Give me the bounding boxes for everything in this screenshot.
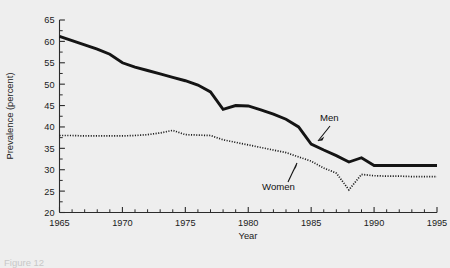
annotation-arrow-women (288, 163, 297, 182)
x-axis-title: Year (239, 230, 258, 241)
annotation-label-men: Men (320, 112, 339, 123)
y-tick-label: 40 (44, 122, 54, 132)
y-axis-title: Prevalence (percent) (4, 72, 15, 159)
y-tick-label: 60 (44, 37, 54, 47)
x-tick-label: 1990 (364, 218, 384, 228)
series-line-women (60, 130, 438, 189)
annotation-label-women: Women (262, 181, 295, 192)
smoking-prevalence-chart: 20253035404550556065 1965197019751980198… (0, 0, 450, 268)
y-axis: 20253035404550556065 (44, 15, 65, 218)
y-tick-label: 50 (44, 80, 54, 90)
x-tick-label: 1975 (175, 218, 195, 228)
annotation-arrow-men (318, 126, 330, 141)
annotation-men: Men (318, 112, 339, 141)
y-tick-label: 20 (44, 208, 54, 218)
data-series-group (60, 36, 438, 190)
y-tick-label: 25 (44, 187, 54, 197)
x-axis: 1965197019751980198519901995 (49, 207, 447, 228)
y-tick-label: 30 (44, 165, 54, 175)
annotation-women: Women (262, 163, 297, 192)
figure-root: 20253035404550556065 1965197019751980198… (0, 0, 450, 268)
figure-caption: Figure 12 (4, 257, 44, 268)
series-line-men (60, 36, 438, 165)
x-tick-label: 1985 (301, 218, 321, 228)
y-tick-label: 55 (44, 58, 54, 68)
x-tick-label: 1965 (49, 218, 69, 228)
y-tick-label: 65 (44, 15, 54, 25)
y-tick-label: 45 (44, 101, 54, 111)
axis-spines (60, 20, 438, 213)
x-tick-label: 1970 (112, 218, 132, 228)
y-tick-label: 35 (44, 144, 54, 154)
x-tick-label: 1995 (427, 218, 447, 228)
x-tick-label: 1980 (238, 218, 258, 228)
